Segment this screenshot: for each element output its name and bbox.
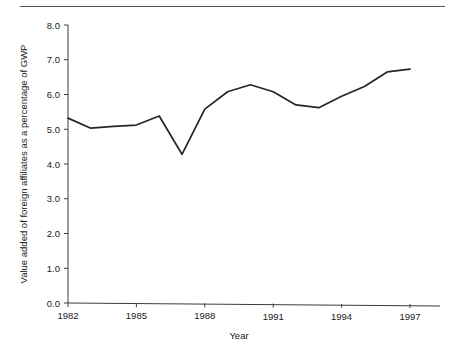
y-tick-label: 4.0	[47, 159, 60, 170]
x-tick-label: 1985	[126, 310, 147, 321]
y-axis-title: Value added of foreign affiliates as a p…	[18, 45, 29, 284]
x-axis-line	[68, 303, 440, 306]
y-axis-tick-labels: 0.01.02.03.04.05.06.07.08.0	[47, 20, 60, 309]
data-series-group	[68, 69, 410, 154]
series-line-gwp-share	[68, 69, 410, 154]
x-axis-tick-labels: 198219851988199119941997	[57, 310, 420, 322]
y-tick-label: 1.0	[47, 263, 60, 274]
y-tick-label: 8.0	[47, 20, 60, 31]
y-tick-label: 0.0	[47, 298, 60, 309]
x-tick-label: 1982	[57, 310, 78, 321]
y-tick-label: 6.0	[47, 89, 60, 100]
chart-figure: 0.01.02.03.04.05.06.07.08.0 Value added …	[0, 0, 450, 360]
y-axis: 0.01.02.03.04.05.06.07.08.0 Value added …	[18, 20, 68, 309]
y-tick-label: 2.0	[47, 228, 60, 239]
y-tick-label: 5.0	[47, 124, 60, 135]
line-chart-plot: 0.01.02.03.04.05.06.07.08.0 Value added …	[0, 0, 450, 360]
y-tick-label: 7.0	[47, 54, 60, 65]
x-tick-label: 1997	[399, 311, 420, 322]
y-axis-ticks	[64, 25, 68, 303]
x-tick-label: 1994	[331, 311, 352, 322]
x-tick-label: 1991	[263, 311, 284, 322]
x-axis: 198219851988199119941997 Year	[57, 303, 440, 341]
x-tick-label: 1988	[194, 310, 215, 321]
y-tick-label: 3.0	[47, 193, 60, 204]
x-axis-title: Year	[229, 330, 248, 341]
